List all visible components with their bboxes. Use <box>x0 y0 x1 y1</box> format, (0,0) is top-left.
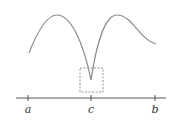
cusp-diagram: a c b <box>0 0 174 121</box>
function-curve <box>29 15 156 80</box>
label-a: a <box>25 103 32 116</box>
label-c: c <box>88 103 94 116</box>
label-b: b <box>151 103 158 116</box>
